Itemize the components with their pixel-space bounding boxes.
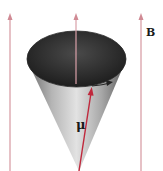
diagram-canvas	[0, 0, 163, 171]
field-line-right	[139, 13, 144, 171]
field-label-b: B	[146, 26, 155, 39]
moment-label-mu: μ	[76, 117, 86, 132]
field-line-left	[8, 13, 13, 171]
